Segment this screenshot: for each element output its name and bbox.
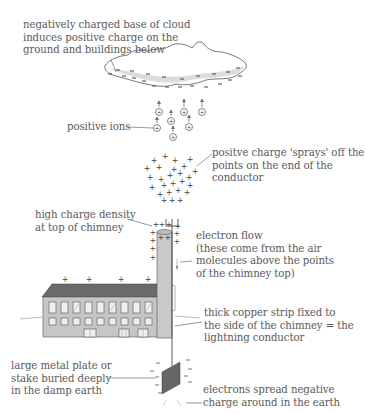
chimney (157, 230, 172, 339)
svg-text:+: + (118, 275, 125, 284)
svg-text:+: + (171, 134, 176, 140)
svg-text:+: + (166, 220, 172, 229)
positive-charge-spray: ++++ +++++ +++++ +++++ ++++ +++ (144, 152, 199, 205)
label-electron-flow: electron flow (these come from the air m… (196, 230, 334, 280)
label-high-charge-density: high charge density at top of chimney (35, 209, 136, 234)
svg-text:+: + (165, 233, 171, 242)
svg-text:+: + (179, 177, 186, 186)
label-copper-strip: thick copper strip fixed to the side of … (204, 307, 354, 345)
svg-text:+: + (86, 275, 93, 284)
svg-text:+: + (174, 237, 180, 246)
positive-ions (154, 99, 206, 141)
svg-text:+: + (200, 109, 205, 115)
lightning-conductor-diagram: +++ +++ + ++++ +++++ +++++ +++++ ++++ ++… (0, 0, 366, 414)
building: ++++ (42, 275, 162, 337)
svg-text:+: + (187, 124, 192, 130)
svg-text:+: + (162, 152, 169, 161)
svg-text:+: + (192, 167, 199, 176)
svg-text:+: + (177, 196, 184, 205)
svg-text:+: + (159, 220, 165, 229)
svg-text:+: + (175, 186, 182, 195)
svg-text:+: + (182, 109, 187, 115)
svg-text:+: + (157, 109, 162, 115)
svg-text:+: + (155, 125, 160, 131)
svg-text:+: + (150, 253, 156, 262)
svg-text:+: + (62, 275, 69, 284)
svg-text:+: + (147, 173, 154, 182)
svg-text:+: + (184, 188, 191, 197)
svg-text:+: + (150, 244, 156, 253)
svg-text:+: + (161, 196, 168, 205)
svg-text:+: + (158, 233, 164, 242)
label-positive-ions: positive ions (67, 121, 130, 134)
metal-plate (150, 360, 192, 406)
label-cloud: negatively charged base of cloud induces… (23, 19, 190, 57)
svg-text:+: + (145, 275, 152, 284)
svg-text:+: + (149, 183, 156, 192)
svg-text:+: + (172, 156, 179, 165)
svg-text:+: + (156, 163, 163, 172)
svg-text:+: + (144, 164, 151, 173)
label-electrons-spread: electrons spread negative charge around … (203, 384, 340, 409)
svg-text:+: + (187, 155, 194, 164)
svg-text:+: + (169, 196, 176, 205)
svg-text:+: + (169, 118, 174, 124)
label-spray: positve charge 'sprays' off the points o… (212, 147, 364, 185)
label-metal-plate: large metal plate or stake buried deeply… (11, 360, 112, 398)
